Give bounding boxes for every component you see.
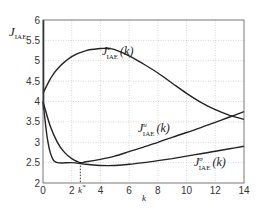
data-curves	[43, 20, 244, 166]
y-tick-label: 2.5	[26, 157, 40, 168]
y-tick-label: 6	[34, 15, 40, 26]
x-tick-label: 6	[126, 185, 132, 196]
series-label-sigma: JσIAE(k)	[194, 155, 226, 172]
series-line-v	[43, 48, 244, 119]
y-tick-label: 3	[34, 137, 40, 148]
y-tick-labels: 22.533.544.555.56	[26, 15, 40, 189]
kstar-label: k*	[78, 183, 86, 195]
y-tick-label: 5	[34, 55, 40, 66]
y-axis-label: JIAE	[9, 24, 26, 41]
x-tick-label: 4	[98, 185, 104, 196]
iae-chart: 02468101214 22.533.544.555.56 JIAE k k* …	[0, 0, 264, 210]
y-tick-label: 2	[34, 178, 40, 189]
y-tick-label: 4	[34, 96, 40, 107]
series-label-v: JvIAE(k)	[102, 44, 133, 61]
series-label-u: JuIAE(k)	[138, 121, 170, 138]
x-tick-label: 10	[181, 185, 193, 196]
x-axis-label: k	[142, 193, 147, 203]
x-tick-label: 8	[155, 185, 161, 196]
y-tick-label: 4.5	[26, 76, 40, 87]
x-tick-label: 0	[40, 185, 46, 196]
y-tick-label: 3.5	[26, 116, 40, 127]
x-tick-label: 14	[238, 185, 250, 196]
y-tick-label: 5.5	[26, 35, 40, 46]
x-tick-label: 12	[210, 185, 222, 196]
x-tick-label: 2	[69, 185, 75, 196]
